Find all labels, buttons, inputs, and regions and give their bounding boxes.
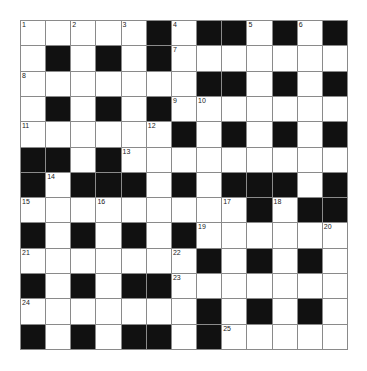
letter-cell[interactable] bbox=[298, 325, 322, 349]
letter-cell[interactable]: 7 bbox=[172, 46, 196, 70]
letter-cell[interactable] bbox=[222, 299, 246, 323]
letter-cell[interactable] bbox=[298, 223, 322, 247]
letter-cell[interactable] bbox=[71, 122, 95, 146]
letter-cell[interactable]: 24 bbox=[21, 299, 45, 323]
letter-cell[interactable] bbox=[147, 249, 171, 273]
letter-cell[interactable]: 17 bbox=[222, 198, 246, 222]
letter-cell[interactable] bbox=[247, 325, 271, 349]
letter-cell[interactable] bbox=[96, 299, 120, 323]
letter-cell[interactable] bbox=[273, 223, 297, 247]
letter-cell[interactable] bbox=[46, 122, 70, 146]
letter-cell[interactable] bbox=[298, 274, 322, 298]
letter-cell[interactable] bbox=[71, 46, 95, 70]
letter-cell[interactable] bbox=[122, 198, 146, 222]
letter-cell[interactable] bbox=[273, 249, 297, 273]
letter-cell[interactable] bbox=[323, 148, 347, 172]
letter-cell[interactable] bbox=[273, 274, 297, 298]
letter-cell[interactable]: 10 bbox=[197, 97, 221, 121]
letter-cell[interactable] bbox=[273, 97, 297, 121]
letter-cell[interactable] bbox=[323, 97, 347, 121]
letter-cell[interactable] bbox=[96, 249, 120, 273]
letter-cell[interactable] bbox=[323, 274, 347, 298]
letter-cell[interactable] bbox=[46, 325, 70, 349]
letter-cell[interactable] bbox=[222, 249, 246, 273]
letter-cell[interactable] bbox=[323, 249, 347, 273]
letter-cell[interactable] bbox=[122, 97, 146, 121]
letter-cell[interactable]: 1 bbox=[21, 21, 45, 45]
letter-cell[interactable] bbox=[46, 21, 70, 45]
letter-cell[interactable] bbox=[21, 97, 45, 121]
letter-cell[interactable] bbox=[298, 173, 322, 197]
letter-cell[interactable] bbox=[147, 198, 171, 222]
letter-cell[interactable] bbox=[46, 274, 70, 298]
letter-cell[interactable]: 4 bbox=[172, 21, 196, 45]
letter-cell[interactable] bbox=[247, 46, 271, 70]
letter-cell[interactable] bbox=[122, 299, 146, 323]
letter-cell[interactable] bbox=[247, 97, 271, 121]
letter-cell[interactable] bbox=[247, 223, 271, 247]
letter-cell[interactable] bbox=[46, 72, 70, 96]
letter-cell[interactable] bbox=[172, 198, 196, 222]
letter-cell[interactable] bbox=[197, 148, 221, 172]
letter-cell[interactable] bbox=[222, 223, 246, 247]
letter-cell[interactable] bbox=[21, 46, 45, 70]
letter-cell[interactable] bbox=[147, 299, 171, 323]
letter-cell[interactable] bbox=[298, 46, 322, 70]
letter-cell[interactable] bbox=[96, 325, 120, 349]
letter-cell[interactable] bbox=[122, 249, 146, 273]
letter-cell[interactable] bbox=[71, 249, 95, 273]
letter-cell[interactable] bbox=[46, 198, 70, 222]
letter-cell[interactable] bbox=[46, 249, 70, 273]
letter-cell[interactable] bbox=[222, 97, 246, 121]
letter-cell[interactable]: 3 bbox=[122, 21, 146, 45]
letter-cell[interactable] bbox=[71, 198, 95, 222]
letter-cell[interactable] bbox=[172, 325, 196, 349]
letter-cell[interactable] bbox=[273, 46, 297, 70]
letter-cell[interactable]: 8 bbox=[21, 72, 45, 96]
letter-cell[interactable] bbox=[273, 148, 297, 172]
letter-cell[interactable] bbox=[222, 46, 246, 70]
letter-cell[interactable]: 20 bbox=[323, 223, 347, 247]
letter-cell[interactable] bbox=[71, 299, 95, 323]
letter-cell[interactable] bbox=[122, 72, 146, 96]
letter-cell[interactable] bbox=[323, 46, 347, 70]
letter-cell[interactable]: 14 bbox=[46, 173, 70, 197]
letter-cell[interactable] bbox=[147, 72, 171, 96]
letter-cell[interactable]: 19 bbox=[197, 223, 221, 247]
letter-cell[interactable] bbox=[147, 148, 171, 172]
letter-cell[interactable]: 23 bbox=[172, 274, 196, 298]
letter-cell[interactable] bbox=[298, 148, 322, 172]
letter-cell[interactable] bbox=[323, 299, 347, 323]
letter-cell[interactable] bbox=[71, 72, 95, 96]
letter-cell[interactable] bbox=[96, 223, 120, 247]
letter-cell[interactable] bbox=[222, 148, 246, 172]
letter-cell[interactable] bbox=[197, 122, 221, 146]
letter-cell[interactable] bbox=[247, 274, 271, 298]
letter-cell[interactable] bbox=[247, 148, 271, 172]
letter-cell[interactable]: 22 bbox=[172, 249, 196, 273]
letter-cell[interactable]: 12 bbox=[147, 122, 171, 146]
letter-cell[interactable] bbox=[197, 173, 221, 197]
letter-cell[interactable] bbox=[273, 325, 297, 349]
letter-cell[interactable] bbox=[71, 148, 95, 172]
letter-cell[interactable] bbox=[96, 274, 120, 298]
letter-cell[interactable]: 11 bbox=[21, 122, 45, 146]
letter-cell[interactable]: 15 bbox=[21, 198, 45, 222]
letter-cell[interactable]: 6 bbox=[298, 21, 322, 45]
letter-cell[interactable]: 18 bbox=[273, 198, 297, 222]
letter-cell[interactable] bbox=[298, 72, 322, 96]
letter-cell[interactable]: 5 bbox=[247, 21, 271, 45]
letter-cell[interactable] bbox=[172, 299, 196, 323]
letter-cell[interactable] bbox=[96, 122, 120, 146]
letter-cell[interactable] bbox=[46, 299, 70, 323]
letter-cell[interactable] bbox=[96, 21, 120, 45]
letter-cell[interactable]: 9 bbox=[172, 97, 196, 121]
letter-cell[interactable]: 13 bbox=[122, 148, 146, 172]
letter-cell[interactable] bbox=[172, 148, 196, 172]
letter-cell[interactable]: 16 bbox=[96, 198, 120, 222]
letter-cell[interactable] bbox=[273, 299, 297, 323]
letter-cell[interactable] bbox=[298, 97, 322, 121]
letter-cell[interactable] bbox=[197, 274, 221, 298]
letter-cell[interactable] bbox=[323, 325, 347, 349]
letter-cell[interactable] bbox=[71, 97, 95, 121]
